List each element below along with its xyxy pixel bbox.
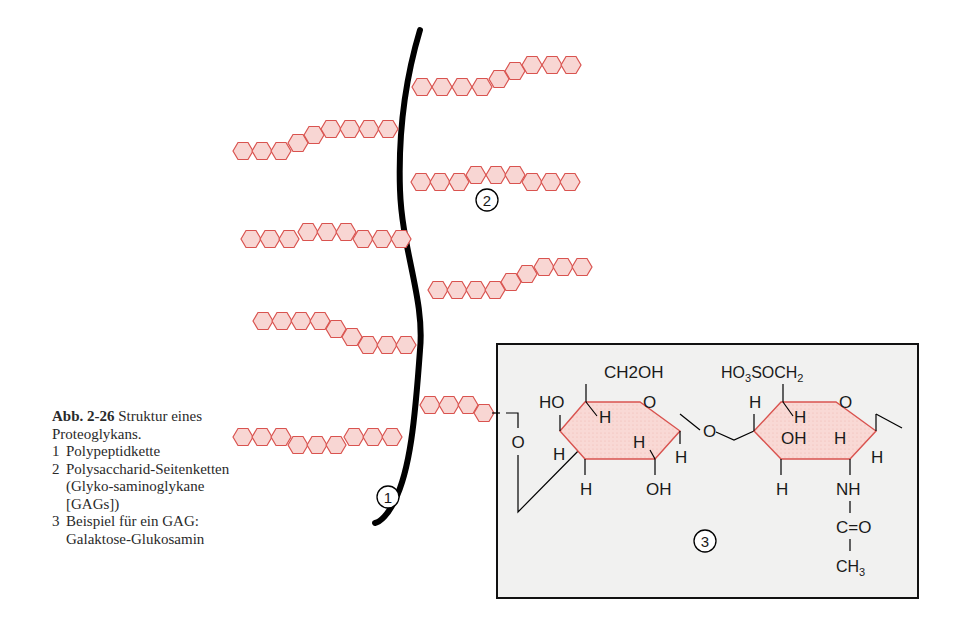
svg-text:2: 2: [483, 192, 491, 209]
gag-structure-box: O CH2OH H HO O H H H OH H O HO3SOCH2 H H…: [492, 344, 918, 598]
caption-item-2: 2 Polysaccharid-Seitenketten (Glyko-sami…: [52, 461, 252, 514]
svg-text:NH: NH: [836, 480, 861, 499]
svg-text:H: H: [776, 480, 788, 499]
svg-text:H: H: [599, 408, 611, 427]
svg-text:O: O: [703, 422, 716, 441]
svg-text:HO: HO: [539, 393, 565, 412]
figure-caption: Abb. 2-26 Struktur eines Proteoglykans. …: [52, 408, 252, 548]
svg-text:OH: OH: [646, 480, 672, 499]
svg-text:H: H: [553, 445, 565, 464]
left-o: O: [511, 433, 524, 452]
svg-text:H: H: [834, 429, 846, 448]
gag-chain-6: [253, 313, 416, 354]
svg-text:O: O: [839, 393, 852, 412]
caption-item-1: 1 Polypeptidkette: [52, 443, 252, 461]
svg-text:H: H: [794, 408, 806, 427]
svg-text:H: H: [749, 393, 761, 412]
caption-item-3: 3 Beispiel für ein GAG: Galaktose-Glukos…: [52, 513, 252, 548]
gag-chain-5: [428, 259, 592, 299]
svg-text:H: H: [871, 448, 883, 467]
marker-3: 3: [694, 530, 716, 552]
gag-chain-3: [411, 167, 580, 191]
svg-text:CH2OH: CH2OH: [604, 363, 664, 382]
svg-text:O: O: [643, 393, 656, 412]
gag-chain-4: [241, 224, 411, 248]
gag-chain-2: [233, 121, 398, 160]
caption-title: Abb. 2-26 Struktur eines Proteoglykans.: [52, 408, 252, 443]
gag-chain-8: [233, 429, 402, 454]
marker-2: 2: [476, 189, 498, 211]
svg-text:H: H: [675, 448, 687, 467]
marker-1: 1: [377, 486, 399, 508]
gag-chain-1: [412, 57, 581, 96]
svg-text:H: H: [633, 433, 645, 452]
gag-chain-7: [420, 397, 494, 422]
svg-text:3: 3: [701, 533, 709, 550]
svg-text:OH: OH: [781, 429, 807, 448]
svg-text:1: 1: [384, 489, 392, 506]
polypeptide-chain: [375, 30, 421, 523]
figure-number: Abb. 2-26: [52, 408, 115, 424]
svg-text:C=O: C=O: [836, 518, 871, 537]
svg-text:H: H: [580, 480, 592, 499]
